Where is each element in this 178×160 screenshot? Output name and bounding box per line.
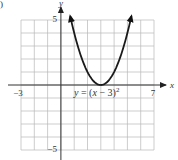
equation-rest: − 3): [97, 87, 116, 99]
y-tick-label-max: 5: [52, 14, 57, 24]
x-tick-label-max: 7: [151, 88, 156, 98]
equation-exponent: 2: [116, 86, 120, 94]
y-tick-label-min: −5: [47, 144, 57, 154]
parabola-right-branch: [101, 16, 132, 85]
parabola-left-branch: [70, 16, 101, 85]
graph: ) y x −3 7 5 −5 y = (x − 3)2: [0, 0, 178, 160]
equation-label: y = (x − 3)2: [73, 86, 120, 99]
equation-eq: = (: [78, 87, 93, 99]
x-tick-label-min: −3: [13, 88, 23, 98]
panel-marker: ): [0, 0, 3, 9]
y-axis-label: y: [58, 0, 63, 8]
x-axis-label: x: [169, 80, 174, 90]
labels: ) y x −3 7 5 −5 y = (x − 3)2: [0, 0, 174, 154]
